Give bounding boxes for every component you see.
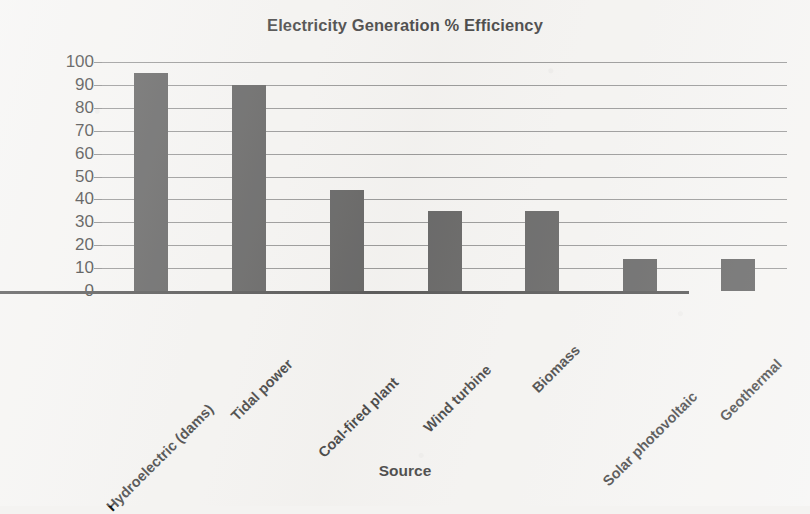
x-axis-tick-label: Wind turbine (420, 362, 494, 436)
y-axis-tick (94, 62, 102, 63)
plot-area (102, 62, 787, 291)
gridline (102, 131, 787, 132)
bar (428, 211, 462, 291)
y-axis-tick-label: 60 (48, 144, 94, 164)
y-axis-tick-label: 90 (48, 75, 94, 95)
y-axis-tick-label: 80 (48, 98, 94, 118)
bar (232, 85, 266, 291)
x-axis-tick-label: Geothermal (717, 356, 785, 424)
bar (134, 73, 168, 291)
y-axis-tick (94, 245, 102, 246)
x-axis-line (0, 291, 689, 294)
y-axis-tick (94, 222, 102, 223)
chart-title: Electricity Generation % Efficiency (0, 16, 810, 35)
bar (330, 190, 364, 291)
x-axis-tick-label: Tidal power (228, 356, 296, 424)
y-axis-tick-label: 70 (48, 121, 94, 141)
y-axis-tick (94, 199, 102, 200)
gridline (102, 154, 787, 155)
y-axis-tick-label: 10 (48, 258, 94, 278)
y-axis-tick (94, 108, 102, 109)
y-axis-tick (94, 85, 102, 86)
y-axis-tick (94, 131, 102, 132)
gridline (102, 62, 787, 63)
y-axis-tick (94, 154, 102, 155)
bar (525, 211, 559, 291)
gridline (102, 108, 787, 109)
y-axis-tick-label: 30 (48, 212, 94, 232)
bar (721, 259, 755, 291)
gridline (102, 85, 787, 86)
x-axis-tick-label: Coal-fired plant (315, 374, 402, 461)
x-axis-title: Source (0, 462, 810, 480)
bar (623, 259, 657, 291)
y-axis-tick-label: 100 (48, 52, 94, 72)
y-axis-tick-label: 40 (48, 189, 94, 209)
gridline (102, 177, 787, 178)
y-axis-tick (94, 268, 102, 269)
gridline (102, 199, 787, 200)
x-axis-tick-label: Hydroelectric (dams) (103, 401, 216, 514)
y-axis-tick-label: 50 (48, 167, 94, 187)
y-axis-tick-label: 20 (48, 235, 94, 255)
x-axis-tick-label: Biomass (529, 342, 583, 396)
y-axis-tick (94, 177, 102, 178)
